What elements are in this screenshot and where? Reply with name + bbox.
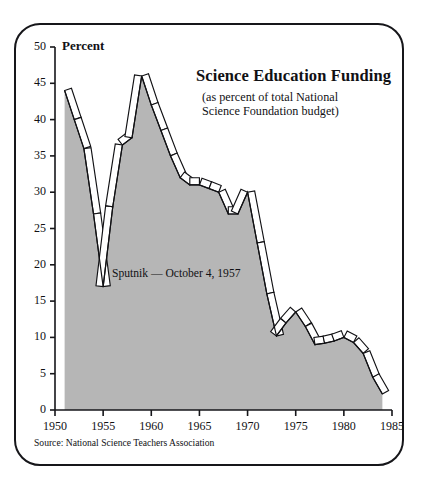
y-tick-label: 15 [20, 293, 46, 308]
chart-subtitle-line1: (as percent of total National [202, 90, 338, 105]
y-tick-label: 30 [20, 184, 46, 199]
area-fill [65, 76, 383, 410]
x-tick-label: 1980 [324, 419, 364, 434]
x-tick-label: 1965 [179, 419, 219, 434]
y-axis-label: Percent [62, 38, 104, 54]
y-tick-label: 45 [20, 75, 46, 90]
x-tick-label: 1960 [131, 419, 171, 434]
y-tick-label: 5 [20, 366, 46, 381]
sputnik-annotation: Sputnik — October 4, 1957 [112, 267, 241, 280]
x-tick-label: 1970 [228, 419, 268, 434]
y-tick-label: 0 [20, 402, 46, 417]
y-tick-label: 50 [20, 39, 46, 54]
chart-title: Science Education Funding [196, 66, 391, 86]
x-tick-label: 1985 [372, 419, 412, 434]
chart-figure: Science Education Funding (as percent of… [0, 0, 425, 488]
chart-subtitle-line2: Science Foundation budget) [202, 104, 339, 119]
source-note: Source: National Science Teachers Associ… [34, 437, 214, 448]
y-tick-label: 20 [20, 257, 46, 272]
x-tick-label: 1950 [35, 419, 75, 434]
x-tick-label: 1975 [276, 419, 316, 434]
x-tick-label: 1955 [83, 419, 123, 434]
y-tick-label: 25 [20, 221, 46, 236]
y-tick-label: 10 [20, 329, 46, 344]
y-tick-label: 40 [20, 112, 46, 127]
y-tick-label: 35 [20, 148, 46, 163]
